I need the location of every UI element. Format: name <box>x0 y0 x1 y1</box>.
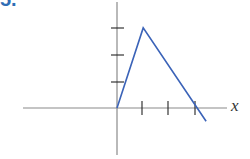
graph-figure: 5. x <box>0 0 250 159</box>
function-graph-line <box>117 28 206 121</box>
plot-area <box>0 0 250 159</box>
problem-number-label: 5. <box>0 0 17 9</box>
x-axis-label: x <box>231 97 239 114</box>
